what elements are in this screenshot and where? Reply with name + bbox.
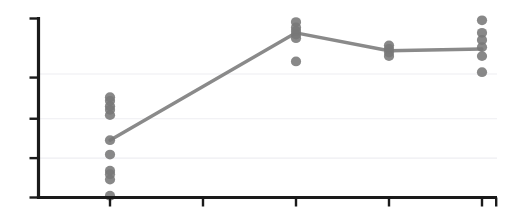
data-point bbox=[477, 51, 487, 61]
data-point bbox=[477, 15, 487, 25]
chart-container bbox=[0, 0, 507, 221]
series-line-mean bbox=[110, 33, 482, 140]
data-point bbox=[477, 42, 487, 52]
data-point bbox=[291, 33, 301, 43]
data-point bbox=[384, 51, 394, 61]
data-point bbox=[105, 135, 115, 145]
data-point bbox=[105, 175, 115, 185]
data-point bbox=[105, 150, 115, 160]
series-line-group bbox=[110, 33, 482, 140]
chart-plot bbox=[0, 0, 507, 221]
data-point bbox=[291, 57, 301, 67]
data-point bbox=[477, 67, 487, 77]
data-points-group bbox=[105, 15, 487, 200]
data-point bbox=[105, 110, 115, 120]
tick-marks-group bbox=[30, 19, 497, 207]
